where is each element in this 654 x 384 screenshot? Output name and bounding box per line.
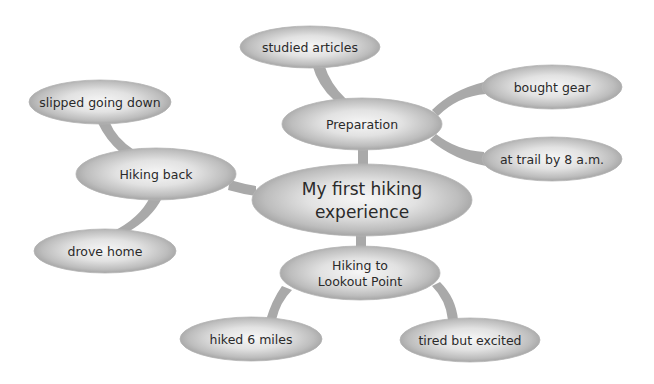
center-title-line-2: experience	[315, 202, 409, 222]
node-drove-home: drove home	[34, 229, 176, 273]
node-bought-gear: bought gear	[482, 65, 622, 109]
connector-slipped	[98, 123, 134, 152]
node-label-line-1: Hiking to	[332, 258, 388, 273]
node-slipped-going-down: slipped going down	[29, 80, 171, 124]
connector-bought-gear	[432, 82, 486, 116]
connector-studied-articles	[312, 64, 346, 100]
node-label: studied articles	[262, 40, 358, 55]
node-at-trail: at trail by 8 a.m.	[482, 137, 622, 181]
node-label: at trail by 8 a.m.	[500, 152, 604, 167]
connector-hiked-6-miles	[266, 286, 292, 320]
node-preparation: Preparation	[282, 98, 442, 150]
node-center-topic: My first hiking experience	[252, 164, 472, 236]
node-hiked-6-miles: hiked 6 miles	[180, 317, 322, 361]
node-label: drove home	[68, 244, 143, 259]
node-tired-but-excited: tired but excited	[400, 318, 540, 362]
connector-drove-home	[112, 197, 162, 232]
node-label: slipped going down	[39, 95, 161, 110]
connector-tired-but-excited	[432, 282, 458, 320]
node-label-line-2: Lookout Point	[318, 274, 402, 289]
node-label: bought gear	[514, 80, 592, 95]
node-hiking-to-lookout-point: Hiking to Lookout Point	[280, 246, 440, 300]
mind-map-diagram: studied articles Preparation bought gear…	[0, 0, 654, 384]
node-label: hiked 6 miles	[209, 332, 292, 347]
node-label: Preparation	[326, 117, 398, 132]
connector-at-trail	[430, 134, 486, 166]
node-hiking-back: Hiking back	[76, 148, 236, 200]
node-label: tired but excited	[418, 333, 521, 348]
node-label: Hiking back	[119, 167, 193, 182]
center-title-line-1: My first hiking	[302, 179, 422, 199]
node-studied-articles: studied articles	[240, 26, 380, 68]
